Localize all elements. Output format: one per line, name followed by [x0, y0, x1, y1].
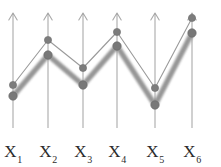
data-point-thick-series-X6 [188, 29, 196, 37]
series-line-thin-series [13, 18, 192, 88]
axis-label-base-3: X [74, 142, 86, 161]
data-point-thin-series-X3 [79, 64, 86, 71]
data-point-thick-series-X2 [44, 51, 52, 59]
data-point-thick-series-X4 [113, 42, 121, 50]
axis-label-1: X1 [4, 142, 22, 167]
axis-label-6: X6 [183, 142, 201, 167]
axis-label-subscript-3: 3 [87, 154, 92, 165]
series-thin-group [13, 18, 192, 88]
data-point-thin-series-X1 [9, 81, 16, 88]
axis-label-5: X5 [146, 142, 164, 167]
data-point-thick-series-X5 [151, 101, 159, 109]
axis-label-subscript-6: 6 [196, 154, 201, 165]
axis-label-2: X2 [39, 142, 57, 167]
axis-label-subscript-4: 4 [121, 154, 126, 165]
axis-label-4: X4 [108, 142, 126, 167]
axis-label-subscript-1: 1 [17, 154, 22, 165]
data-point-thin-series-X4 [113, 28, 120, 35]
axis-label-base-2: X [39, 142, 51, 161]
data-point-thin-series-X2 [44, 36, 51, 43]
figure-root: X1X2X3X4X5X6 [0, 0, 221, 167]
axis-label-base-1: X [4, 142, 16, 161]
data-point-thin-series-X6 [188, 14, 195, 21]
data-point-thin-series-X5 [151, 84, 158, 91]
axis-label-base-6: X [183, 142, 195, 161]
axis-label-subscript-2: 2 [52, 154, 57, 165]
axis-label-row: X1X2X3X4X5X6 [0, 132, 221, 166]
axis-label-base-5: X [146, 142, 158, 161]
axis-label-base-4: X [108, 142, 120, 161]
axis-label-subscript-5: 5 [159, 154, 164, 165]
data-point-thick-series-X3 [79, 81, 87, 89]
data-point-thick-series-X1 [9, 92, 17, 100]
axis-label-3: X3 [74, 142, 92, 167]
